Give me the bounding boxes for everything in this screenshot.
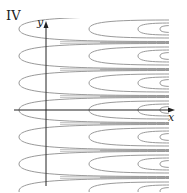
- y-axis-arrow-icon: [44, 21, 49, 28]
- level-curves: [19, 16, 175, 193]
- separatrix-line: [60, 16, 175, 17]
- level-curve: [138, 158, 175, 170]
- level-curve: [160, 161, 175, 168]
- level-curve: [160, 134, 175, 141]
- level-curve: [172, 81, 175, 85]
- level-curve: [172, 135, 175, 139]
- level-curve: [160, 53, 175, 60]
- x-axis-label: x: [168, 111, 174, 124]
- plot-area: [0, 0, 187, 192]
- level-curve: [138, 23, 175, 35]
- level-curve: [160, 26, 175, 33]
- level-curve: [172, 54, 175, 58]
- y-axis-label: y: [37, 16, 43, 29]
- phase-portrait-figure: IV y x: [0, 0, 187, 192]
- level-curve: [138, 50, 175, 62]
- level-curve: [172, 162, 175, 166]
- level-curve: [138, 77, 175, 89]
- level-curve: [172, 27, 175, 31]
- level-curve: [89, 182, 175, 192]
- level-curve: [172, 189, 175, 192]
- level-curve: [138, 185, 175, 192]
- level-curve: [138, 131, 175, 143]
- axes: [14, 21, 175, 186]
- panel-label: IV: [6, 8, 21, 23]
- level-curve: [160, 80, 175, 87]
- level-curve: [160, 188, 175, 193]
